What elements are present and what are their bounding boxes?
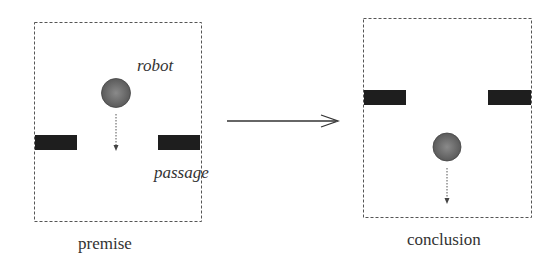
passage-wall-left xyxy=(35,135,77,150)
conclusion-panel xyxy=(364,19,532,218)
robot-icon xyxy=(433,133,461,161)
robot-icon xyxy=(102,79,131,108)
passage-wall-right xyxy=(488,90,531,105)
robot-label: robot xyxy=(137,57,173,74)
passage-wall-left xyxy=(364,90,406,105)
inference-arrow-icon xyxy=(227,115,338,127)
premise-panel xyxy=(35,23,202,222)
passage-label: passage xyxy=(154,164,209,181)
passage-wall-right xyxy=(158,135,200,150)
conclusion-frame xyxy=(364,19,532,218)
premise-frame xyxy=(35,23,202,222)
premise-caption: premise xyxy=(78,235,132,252)
conclusion-caption: conclusion xyxy=(407,231,481,248)
